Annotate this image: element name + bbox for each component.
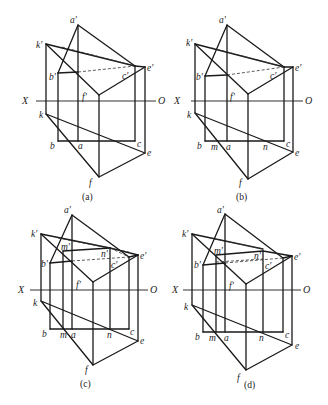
projection-figure: X O a' k' b' c' e' f' k b a c e f (a) [0, 0, 328, 405]
svg-text:m: m [209, 333, 216, 343]
svg-text:f: f [237, 373, 241, 383]
svg-text:O: O [303, 284, 310, 295]
svg-text:O: O [305, 95, 312, 106]
svg-text:k: k [39, 110, 44, 120]
caption-b: (b) [236, 192, 247, 203]
svg-text:a: a [226, 142, 231, 152]
axis-label-x: X [21, 95, 29, 106]
svg-text:f': f' [76, 280, 82, 290]
svg-text:a': a' [217, 205, 225, 215]
svg-text:X: X [173, 95, 181, 106]
svg-text:f: f [89, 178, 93, 188]
svg-text:e: e [295, 341, 299, 351]
svg-text:n': n' [254, 251, 262, 261]
svg-text:a': a' [219, 15, 227, 25]
svg-text:f: f [239, 178, 243, 188]
svg-text:b: b [197, 141, 202, 151]
svg-text:b': b' [41, 259, 49, 269]
svg-text:b': b' [49, 72, 57, 82]
panel-b: X O a' k' b' c' e' f' k b m a n c e f (b… [173, 15, 312, 203]
svg-text:c': c' [270, 71, 277, 81]
svg-text:n: n [259, 333, 264, 343]
svg-text:k': k' [31, 229, 38, 239]
svg-text:b: b [195, 332, 200, 342]
svg-text:e: e [295, 148, 299, 158]
panel-c: X O a' k' m' n' b' c' e' f' k b m a [17, 205, 157, 390]
svg-text:m: m [60, 330, 67, 340]
svg-text:c: c [130, 327, 135, 337]
caption-d: (d) [244, 380, 255, 391]
panel-a: X O a' k' b' c' e' f' k b a c e f (a) [21, 15, 165, 203]
svg-text:e: e [147, 148, 151, 158]
svg-text:k: k [184, 302, 189, 312]
triangle-kef [46, 114, 145, 177]
svg-text:a: a [71, 330, 76, 340]
panel-d: X O a' k' m' n' b' c' e' f' k b m a [171, 205, 310, 391]
svg-text:k: k [33, 298, 38, 308]
svg-text:k': k' [186, 38, 193, 48]
svg-text:a': a' [64, 205, 72, 215]
svg-text:c': c' [111, 260, 118, 270]
svg-text:e': e' [295, 63, 302, 73]
svg-text:b: b [50, 141, 55, 151]
svg-text:a: a [78, 141, 83, 151]
svg-text:m': m' [214, 246, 224, 256]
svg-text:e': e' [147, 63, 154, 73]
svg-text:f': f' [82, 92, 88, 102]
caption-a: (a) [82, 192, 93, 203]
svg-text:e: e [140, 336, 144, 346]
svg-text:c: c [286, 139, 291, 149]
svg-text:k: k [187, 110, 192, 120]
svg-text:e': e' [140, 251, 147, 261]
svg-text:c': c' [265, 261, 272, 271]
caption-c: (c) [80, 379, 91, 390]
svg-text:a': a' [70, 15, 78, 25]
svg-text:k': k' [36, 40, 43, 50]
svg-text:c': c' [122, 71, 129, 81]
svg-text:n': n' [101, 249, 109, 259]
svg-text:m': m' [61, 242, 71, 252]
svg-text:O: O [150, 284, 157, 295]
svg-text:k': k' [182, 229, 189, 239]
svg-text:X: X [171, 284, 179, 295]
svg-text:f': f' [230, 92, 236, 102]
svg-text:n: n [263, 142, 268, 152]
svg-text:n: n [107, 330, 112, 340]
svg-text:c: c [285, 330, 290, 340]
svg-text:b': b' [196, 72, 204, 82]
svg-text:f: f [85, 365, 89, 375]
axis-label-o: O [158, 95, 165, 106]
line-k1-f1 [46, 44, 99, 95]
svg-text:e': e' [294, 252, 301, 262]
svg-text:f': f' [229, 281, 235, 291]
svg-text:m: m [211, 142, 218, 152]
svg-text:c: c [137, 139, 142, 149]
svg-text:b': b' [194, 260, 202, 270]
svg-text:b: b [42, 329, 47, 339]
svg-text:X: X [17, 284, 25, 295]
svg-text:a: a [224, 333, 229, 343]
